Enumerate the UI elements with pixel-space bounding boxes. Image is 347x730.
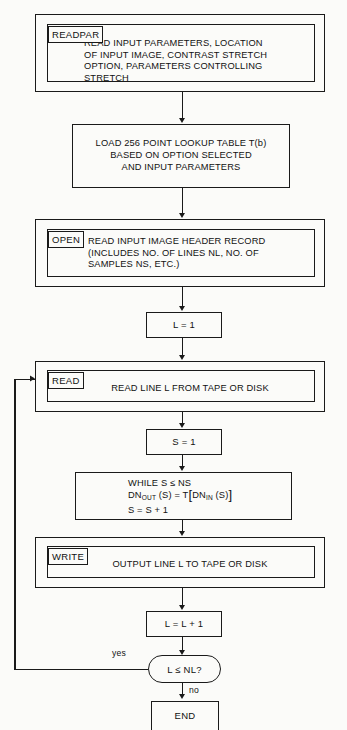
dn-out-subscript: OUT <box>142 494 156 501</box>
arrowhead-readpar-to-load <box>179 118 185 123</box>
readpar-tab-label: READPAR <box>48 26 103 43</box>
decision-label: L ≤ NL? <box>167 664 201 675</box>
init-sample-label: S = 1 <box>146 436 222 447</box>
end-label: END <box>175 710 196 721</box>
connector-load-to-open <box>182 188 184 214</box>
decision-no-label: no <box>189 685 199 695</box>
open-body-text: READ INPUT IMAGE HEADER RECORD (INCLUDES… <box>88 236 265 271</box>
arrowhead-read-to-init-sample <box>179 423 185 428</box>
arrowhead-init-sample-to-while <box>179 466 185 471</box>
loop-line-vertical-left <box>14 379 16 669</box>
dn-in-subscript: IN <box>206 494 213 501</box>
increment-line-label: L = L + 1 <box>146 618 222 629</box>
connector-write-to-increment <box>182 588 184 606</box>
connector-init-line-to-read <box>182 338 184 356</box>
bracket-open: [ <box>188 487 192 502</box>
read-body-text: READ LINE L FROM TAPE OR DISK <box>75 383 305 395</box>
while-assignment-mid: (S) = T <box>156 490 188 500</box>
load-lookup-table-text: LOAD 256 POINT LOOKUP TABLE T(b) BASED O… <box>72 138 290 173</box>
arrowhead-open-to-init-line <box>179 306 185 311</box>
dn-out-symbol: DN <box>128 490 142 500</box>
dn-in-symbol: DN <box>192 490 206 500</box>
loop-line-horizontal-bottom <box>14 669 148 671</box>
arrowhead-init-line-to-read <box>179 355 185 360</box>
init-line-label: L = 1 <box>146 319 222 330</box>
while-condition-text: WHILE S ≤ NS <box>128 477 191 489</box>
read-tab-label: READ <box>48 372 84 389</box>
connector-increment-to-decision <box>182 637 184 651</box>
sample-increment-text: S = S + 1 <box>128 504 168 516</box>
arrowhead-decision-to-end <box>179 694 185 699</box>
arrowhead-while-to-write <box>179 531 185 536</box>
arrowhead-write-to-increment <box>179 605 185 610</box>
bracket-close: ] <box>228 487 232 502</box>
write-body-text: OUTPUT LINE L TO TAPE OR DISK <box>75 559 305 571</box>
flowchart-canvas: READPAR READ INPUT PARAMETERS, LOCATION … <box>0 0 347 730</box>
connector-readpar-to-load <box>182 92 184 119</box>
write-tab-label: WRITE <box>48 548 88 565</box>
arrowhead-load-to-open <box>179 213 185 218</box>
while-assignment-text: DNOUT (S) = T[DNIN (S)] <box>128 489 232 502</box>
readpar-body-text: READ INPUT PARAMETERS, LOCATION OF INPUT… <box>84 38 267 84</box>
while-assignment-tail: (S) <box>213 490 229 500</box>
decision-yes-label: yes <box>112 648 126 658</box>
open-tab-label: OPEN <box>48 231 84 248</box>
end-box: END <box>151 701 219 730</box>
decision-node: L ≤ NL? <box>148 655 221 683</box>
connector-open-to-init-line <box>182 287 184 307</box>
arrowhead-loop-to-read <box>30 375 35 381</box>
